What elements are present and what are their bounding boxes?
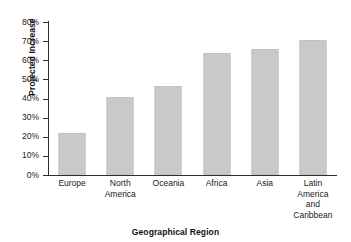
bar-slot xyxy=(144,22,192,175)
x-axis-label-line: Latin xyxy=(283,178,343,189)
bar xyxy=(299,40,326,175)
y-axis-tick-label: 80% xyxy=(5,18,39,27)
bar-slot xyxy=(96,22,144,175)
x-axis-label-line: America xyxy=(90,189,150,200)
bar xyxy=(155,86,182,175)
bar-slot xyxy=(193,22,241,175)
x-axis-label-line: and xyxy=(283,199,343,210)
x-axis-title: Geographical Region xyxy=(0,227,351,237)
y-axis-tick xyxy=(43,175,48,176)
y-axis-tick-label: 20% xyxy=(5,132,39,141)
x-axis-label: LatinAmericaandCaribbean xyxy=(283,178,343,220)
bar-slot xyxy=(241,22,289,175)
x-axis-label-line: Caribbean xyxy=(283,210,343,221)
y-axis-tick-label: 30% xyxy=(5,113,39,122)
bar-slot xyxy=(289,22,337,175)
y-axis-tick-label: 50% xyxy=(5,75,39,84)
x-axis-line xyxy=(48,175,337,176)
x-axis-label-line: America xyxy=(283,189,343,200)
bar-chart: Projected Increase 0%10%20%30%40%50%60%7… xyxy=(0,0,351,242)
y-axis-tick-label: 60% xyxy=(5,56,39,65)
bar xyxy=(107,97,134,175)
bar xyxy=(251,49,278,175)
bar-slot xyxy=(48,22,96,175)
y-axis-tick-label: 0% xyxy=(5,171,39,180)
y-axis-tick-label: 10% xyxy=(5,151,39,160)
bar xyxy=(203,53,230,175)
y-axis-tick-label: 40% xyxy=(5,94,39,103)
x-axis-category-labels: EuropeNorthAmericaOceaniaAfricaAsiaLatin… xyxy=(48,178,337,230)
bars-container xyxy=(48,22,337,175)
bar xyxy=(59,133,86,175)
y-axis-tick-label: 70% xyxy=(5,37,39,46)
